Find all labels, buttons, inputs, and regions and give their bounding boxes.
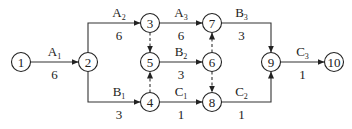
activity-duration-label: 6	[178, 28, 185, 43]
activity-subscript: 1	[121, 92, 125, 101]
activity-letter: C	[235, 84, 244, 99]
activity-letter: B	[175, 44, 184, 59]
node-number: 4	[147, 95, 154, 110]
activity-duration-label: 3	[116, 107, 123, 122]
activity-subscript: 2	[183, 52, 187, 61]
node-number: 8	[209, 95, 216, 110]
node-number: 1	[18, 55, 25, 70]
activity-letter: C	[175, 84, 184, 99]
activity-name-label: C1	[175, 84, 188, 101]
node-number: 9	[268, 55, 275, 70]
node-6: 6	[203, 53, 222, 72]
node-2: 2	[79, 53, 98, 72]
activity-subscript: 2	[122, 13, 126, 22]
activity-name-label: C3	[296, 44, 309, 61]
activity-subscript: 3	[184, 13, 188, 22]
node-5: 5	[141, 53, 160, 72]
activity-duration-label: 1	[238, 107, 245, 122]
node-number: 10	[328, 55, 341, 70]
node-8: 8	[203, 93, 222, 112]
activity-subscript: 1	[183, 92, 187, 101]
activity-subscript: 1	[57, 52, 61, 61]
activity-duration-label: 1	[299, 67, 306, 82]
activity-letter: C	[296, 44, 305, 59]
node-1: 1	[12, 53, 31, 72]
node-4: 4	[141, 93, 160, 112]
activity-name-label: B3	[235, 5, 248, 22]
activity-letter: B	[113, 84, 122, 99]
node-number: 7	[209, 16, 216, 31]
node-7: 7	[203, 14, 222, 33]
activity-name-label: A2	[112, 5, 125, 22]
activity-arrow-7-9	[222, 23, 272, 53]
activity-name-label: A3	[174, 5, 187, 22]
activity-name-label: B2	[175, 44, 188, 61]
activity-name-label: C2	[235, 84, 248, 101]
activity-subscript: 3	[305, 52, 309, 61]
activity-duration-label: 3	[238, 28, 245, 43]
node-9: 9	[262, 53, 281, 72]
node-number: 6	[209, 55, 216, 70]
activity-duration-label: 1	[178, 107, 185, 122]
activity-duration-label: 6	[51, 67, 58, 82]
network-diagram: A16A26A36B13B23B33C11C21C31 12345678910	[0, 0, 352, 129]
node-3: 3	[141, 14, 160, 33]
activity-duration-label: 3	[178, 67, 185, 82]
activity-letter: B	[235, 5, 244, 20]
node-number: 2	[85, 55, 92, 70]
activity-arrow-2-3	[88, 23, 141, 53]
activity-subscript: 2	[244, 92, 248, 101]
activity-duration-label: 6	[116, 28, 123, 43]
activity-subscript: 3	[244, 13, 248, 22]
node-10: 10	[325, 53, 344, 72]
activity-name-label: A1	[48, 44, 61, 61]
activity-name-label: B1	[113, 84, 126, 101]
node-number: 3	[147, 16, 154, 31]
node-number: 5	[147, 55, 154, 70]
